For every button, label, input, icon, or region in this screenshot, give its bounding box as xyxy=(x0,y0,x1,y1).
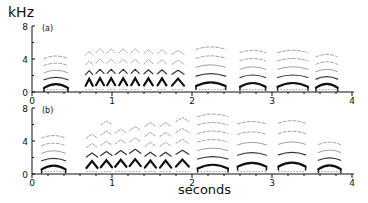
panel-a: 04801234(a) xyxy=(22,22,355,106)
y-tick-label: 0 xyxy=(22,88,28,98)
syllable xyxy=(158,50,167,90)
syllable xyxy=(160,123,171,172)
syllable xyxy=(240,50,266,91)
panel-b: 04801234(b) xyxy=(22,104,355,188)
y-tick-label: 8 xyxy=(22,104,28,114)
syllable xyxy=(176,118,189,172)
y-tick-label: 8 xyxy=(22,22,28,32)
syllable xyxy=(196,47,226,90)
x-tick-label: 2 xyxy=(189,96,195,106)
syllable xyxy=(131,49,139,90)
x-tick-label: 0 xyxy=(29,96,35,106)
syllable xyxy=(115,129,126,171)
syllable xyxy=(316,54,338,91)
y-tick-label: 4 xyxy=(22,137,28,147)
syllable xyxy=(86,134,97,171)
syllable xyxy=(107,49,115,90)
syllable xyxy=(130,127,141,172)
syllable xyxy=(44,56,68,92)
x-tick-label: 3 xyxy=(269,178,275,188)
syllable xyxy=(145,123,156,172)
syllable xyxy=(198,114,228,172)
spectrogram-figure: 04801234(a)04801234(b) xyxy=(0,0,368,203)
syllable xyxy=(318,142,340,173)
x-tick-label: 1 xyxy=(109,178,115,188)
syllable xyxy=(101,121,112,172)
syllable xyxy=(238,122,267,172)
x-tick-label: 3 xyxy=(269,96,275,106)
syllable xyxy=(278,50,308,91)
y-tick-label: 4 xyxy=(22,55,28,65)
syllable xyxy=(278,121,305,172)
x-tick-label: 2 xyxy=(189,178,195,188)
syllable xyxy=(86,51,93,89)
syllable xyxy=(119,49,127,90)
x-tick-label: 4 xyxy=(349,178,355,188)
syllable xyxy=(144,50,153,90)
syllable xyxy=(96,49,104,90)
panel-label: (a) xyxy=(42,24,53,33)
syllable xyxy=(172,50,184,89)
syllable xyxy=(42,136,66,174)
y-tick-label: 0 xyxy=(22,170,28,180)
x-tick-label: 0 xyxy=(29,178,35,188)
panel-label: (b) xyxy=(42,106,53,115)
x-tick-label: 4 xyxy=(349,96,355,106)
x-tick-label: 1 xyxy=(109,96,115,106)
